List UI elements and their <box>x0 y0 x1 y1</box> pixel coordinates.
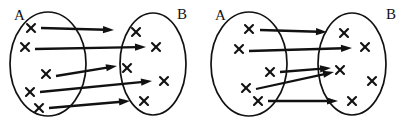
set-b-label: B <box>386 6 396 22</box>
set-a-element-a3 <box>266 68 274 76</box>
arrow-shaft <box>260 30 319 32</box>
diagram-canvas: ABAB <box>0 0 401 128</box>
set-a-element-a5 <box>35 104 43 112</box>
set-a-element-a2 <box>235 45 243 53</box>
set-a-label: A <box>14 7 25 23</box>
set-b-element-b5 <box>140 97 148 105</box>
set-a-element-a3 <box>42 70 50 78</box>
set-b-element-b1 <box>340 29 348 37</box>
mapping-arrow-m2 <box>35 44 146 51</box>
set-b-element-b4 <box>160 77 168 85</box>
arrow-shaft <box>49 102 122 108</box>
mapping-arrow-m2 <box>249 45 352 52</box>
arrow-head <box>322 71 334 78</box>
mapping-arrow-m4 <box>40 78 152 92</box>
set-b-element-b5 <box>348 97 356 105</box>
set-a-element-a4 <box>26 88 34 96</box>
arrow-shaft <box>249 48 344 51</box>
set-b-label: B <box>177 6 187 22</box>
arrow-head <box>141 78 152 85</box>
arrow-head <box>327 97 338 104</box>
set-b-element-b1 <box>132 28 140 36</box>
mapping-arrow-m1 <box>260 28 327 35</box>
arrow-shaft <box>56 67 109 76</box>
arrow-head <box>316 28 327 35</box>
mapping-arrow-m5 <box>49 98 130 108</box>
set-b-element-b2 <box>361 43 369 51</box>
arrow-head <box>135 44 146 51</box>
non-injective-mapping: AB <box>211 6 396 116</box>
arrow-head <box>106 64 117 71</box>
set-b-element-b2 <box>152 43 160 51</box>
set-a-label: A <box>215 7 226 23</box>
mapping-arrow-m5 <box>268 97 338 104</box>
arrow-shaft <box>40 82 144 92</box>
arrow-shaft <box>41 28 106 30</box>
arrow-head <box>341 45 352 52</box>
mapping-figure: ABAB <box>0 0 401 128</box>
set-b-element-b3 <box>123 64 131 72</box>
diagram-layer: ABAB <box>10 6 396 116</box>
set-a-element-a4 <box>242 84 250 92</box>
set-b-element-b3 <box>336 66 344 74</box>
bijective-mapping: AB <box>10 6 187 116</box>
set-a-element-a1 <box>27 24 35 32</box>
set-a-element-a2 <box>21 43 29 51</box>
set-a-element-a1 <box>245 25 253 33</box>
set-a-element-a5 <box>254 97 262 105</box>
arrow-head <box>103 26 114 33</box>
set-b-element-b4 <box>368 77 376 85</box>
